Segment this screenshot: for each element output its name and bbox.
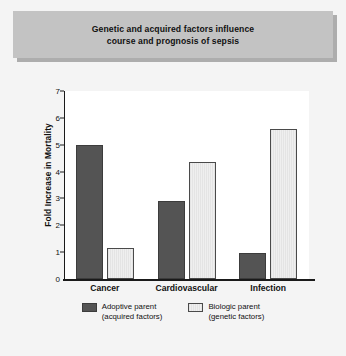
- chart-title-line-2: course and prognosis of sepsis: [107, 36, 239, 46]
- legend-label-adoptive-line-2: (acquired factors): [102, 312, 163, 322]
- legend-swatch-icon-adoptive: [82, 303, 97, 312]
- legend-label-biologic-line-2: (genetic factors): [208, 312, 264, 322]
- legend-item-biologic-parent: Biologic parent (genetic factors): [188, 302, 264, 336]
- legend-label-adoptive-line-1: Adoptive parent: [102, 302, 163, 312]
- bar-biologic-cardiovascular: [189, 162, 216, 279]
- legend-item-adoptive-parent: Adoptive parent (acquired factors): [82, 302, 163, 336]
- y-axis-tick-label: 0: [46, 275, 64, 284]
- chart-title-banner: Genetic and acquired factors influence c…: [13, 11, 333, 58]
- x-axis-label-cardiovascular: Cardiovascular: [155, 283, 217, 293]
- bar-adoptive-infection: [239, 253, 266, 279]
- y-axis-tick-mark: [60, 91, 64, 92]
- bar-adoptive-cancer: [76, 145, 103, 279]
- y-axis-tick-mark: [60, 171, 64, 172]
- legend-label-biologic-line-1: Biologic parent: [208, 302, 264, 312]
- chart-title: Genetic and acquired factors influence c…: [92, 23, 254, 47]
- legend-label-biologic: Biologic parent (genetic factors): [208, 302, 264, 322]
- bar-adoptive-cardiovascular: [158, 201, 185, 279]
- x-axis-line: [63, 279, 315, 281]
- bar-biologic-cancer: [107, 248, 134, 279]
- legend-swatch-icon-biologic: [188, 303, 203, 312]
- chart-title-line-1: Genetic and acquired factors influence: [92, 24, 254, 34]
- chart-legend: Adoptive parent (acquired factors) Biolo…: [13, 302, 333, 336]
- y-axis-tick-mark: [60, 225, 64, 226]
- y-axis-tick-mark: [60, 117, 64, 118]
- x-axis-label-infection: Infection: [250, 283, 286, 293]
- y-axis-tick-mark: [60, 144, 64, 145]
- figure-container: Genetic and acquired factors influence c…: [0, 0, 346, 356]
- x-axis-label-cancer: Cancer: [90, 283, 119, 293]
- bar-biologic-infection: [270, 129, 297, 279]
- y-axis-tick-mark: [60, 252, 64, 253]
- y-axis-tick-mark: [60, 198, 64, 199]
- legend-label-adoptive: Adoptive parent (acquired factors): [102, 302, 163, 322]
